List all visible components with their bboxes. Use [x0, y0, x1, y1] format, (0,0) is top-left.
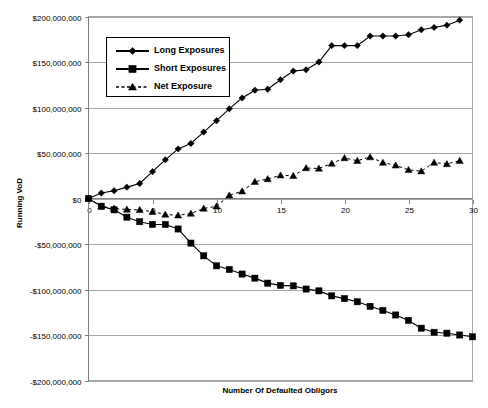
- data-point-square: [329, 293, 335, 299]
- x-axis-title: Number Of Defaulted Obligors: [222, 386, 338, 395]
- y-tick-label: -$200,000,000: [30, 378, 82, 387]
- legend-marker-square: [129, 65, 136, 72]
- y-tick-label: $200,000,000: [33, 14, 82, 23]
- legend-label: Net Exposure: [154, 81, 212, 91]
- x-tick-label: 15: [277, 206, 286, 215]
- data-point-triangle: [175, 212, 182, 218]
- y-tick-label: -$50,000,000: [34, 241, 82, 250]
- y-tick-label: $0: [73, 196, 82, 205]
- y-tick-label: -$150,000,000: [30, 332, 82, 341]
- series-line: [89, 157, 460, 215]
- data-point-square: [265, 280, 271, 286]
- data-point-triangle: [239, 188, 246, 194]
- data-point-diamond: [380, 33, 386, 39]
- x-axis-tick-labels: 051015202530: [87, 206, 478, 215]
- series-line: [89, 199, 473, 337]
- data-point-square: [354, 299, 360, 305]
- y-axis-tick-labels: $200,000,000$150,000,000$100,000,000$50,…: [30, 14, 82, 387]
- data-point-diamond: [418, 26, 424, 32]
- data-point-diamond: [341, 42, 347, 48]
- legend-label: Short Exposures: [154, 63, 226, 73]
- data-point-square: [469, 334, 475, 340]
- data-point-diamond: [111, 188, 117, 194]
- data-point-triangle: [392, 162, 399, 168]
- data-point-square: [367, 303, 373, 309]
- data-point-triangle: [431, 159, 438, 165]
- data-point-triangle: [367, 154, 374, 160]
- x-tick-label: 25: [405, 206, 414, 215]
- data-point-square: [405, 317, 411, 323]
- data-point-square: [137, 219, 143, 225]
- y-tick-label: $50,000,000: [37, 150, 82, 159]
- data-point-triangle: [136, 206, 143, 212]
- data-point-square: [341, 296, 347, 302]
- data-point-triangle: [328, 160, 335, 166]
- data-point-square: [239, 271, 245, 277]
- data-point-square: [175, 226, 181, 232]
- data-point-triangle: [187, 210, 194, 216]
- y-tick-label: -$100,000,000: [30, 287, 82, 296]
- data-point-square: [431, 329, 437, 335]
- data-point-square: [444, 330, 450, 336]
- data-point-square: [252, 275, 258, 281]
- data-point-diamond: [252, 87, 258, 93]
- data-point-diamond: [124, 184, 130, 190]
- data-point-diamond: [393, 33, 399, 39]
- data-point-diamond: [405, 32, 411, 38]
- data-point-triangle: [290, 172, 297, 178]
- data-point-diamond: [431, 24, 437, 30]
- data-point-square: [316, 288, 322, 294]
- y-tick-label: $100,000,000: [33, 105, 82, 114]
- data-point-triangle: [341, 155, 348, 161]
- data-point-square: [124, 214, 130, 220]
- data-point-triangle: [405, 166, 412, 172]
- data-point-square: [188, 240, 194, 246]
- data-point-square: [201, 253, 207, 259]
- data-point-triangle: [162, 211, 169, 217]
- x-tick-label: 20: [341, 206, 350, 215]
- data-point-diamond: [290, 68, 296, 74]
- chart-legend[interactable]: Long ExposuresShort ExposuresNet Exposur…: [107, 38, 230, 97]
- series-short-exposures: [85, 195, 475, 340]
- data-point-diamond: [98, 190, 104, 196]
- data-point-square: [213, 263, 219, 269]
- y-axis-title: Running VoD: [15, 178, 24, 228]
- legend-label: Long Exposures: [154, 45, 225, 55]
- data-point-square: [162, 221, 168, 227]
- data-point-square: [418, 325, 424, 331]
- data-point-triangle: [379, 159, 386, 165]
- data-point-triangle: [456, 157, 463, 163]
- x-axis-ticks: [90, 200, 474, 204]
- y-tick-label: $150,000,000: [33, 59, 82, 68]
- data-point-square: [393, 312, 399, 318]
- data-point-square: [380, 307, 386, 313]
- data-point-square: [303, 286, 309, 292]
- x-tick-label: 30: [469, 206, 478, 215]
- data-point-square: [226, 266, 232, 272]
- data-point-square: [457, 332, 463, 338]
- data-point-diamond: [303, 67, 309, 73]
- data-point-square: [277, 282, 283, 288]
- data-point-square: [290, 283, 296, 289]
- running-vod-line-chart: $200,000,000$150,000,000$100,000,000$50,…: [0, 0, 488, 408]
- chart-container: $200,000,000$150,000,000$100,000,000$50,…: [0, 0, 488, 408]
- data-point-triangle: [277, 172, 284, 178]
- data-point-diamond: [444, 22, 450, 28]
- data-point-square: [149, 221, 155, 227]
